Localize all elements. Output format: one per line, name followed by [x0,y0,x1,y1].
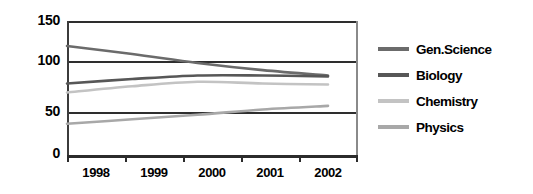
legend-label-gen-science: Gen.Science [416,42,492,57]
x-tick-label-2000: 2000 [187,165,237,180]
chart-legend: Gen.Science Biology Chemistry Physics [378,36,530,140]
line-chart: 150 100 50 0 1998 1999 2000 2001 2002 Ge… [0,0,533,194]
legend-swatch-biology [378,73,409,77]
x-tick-label-1999: 1999 [129,165,179,180]
legend-label-chemistry: Chemistry [416,94,478,109]
legend-item-biology: Biology [378,62,530,88]
legend-swatch-gen-science [378,47,409,51]
legend-item-physics: Physics [378,114,530,140]
x-tick-mark-2000 [183,155,185,162]
x-tick-mark-1998 [67,155,69,162]
y-tick-label-0: 0 [8,145,60,161]
x-axis [67,155,358,158]
legend-item-chemistry: Chemistry [378,88,530,114]
legend-label-biology: Biology [416,68,462,83]
x-tick-mark-2002 [299,155,301,162]
legend-label-physics: Physics [416,120,464,135]
legend-swatch-physics [378,125,409,129]
legend-swatch-chemistry [378,99,409,103]
y-tick-label-50: 50 [8,103,60,119]
x-tick-mark-end [356,155,358,162]
y-axis-labels: 150 100 50 0 [0,0,60,194]
legend-item-gen-science: Gen.Science [378,36,530,62]
x-tick-label-2002: 2002 [303,165,353,180]
y-tick-label-100: 100 [8,52,60,68]
x-tick-mark-1999 [125,155,127,162]
y-tick-label-150: 150 [8,12,60,28]
x-tick-mark-2001 [241,155,243,162]
plot-area [67,21,358,155]
x-tick-label-2001: 2001 [245,165,295,180]
x-tick-label-1998: 1998 [71,165,121,180]
